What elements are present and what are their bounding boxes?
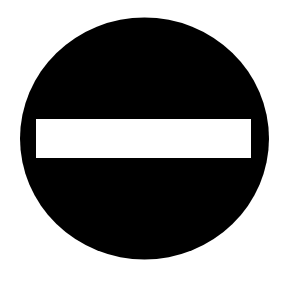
no-entry-sign: No entry sign bbox=[0, 0, 290, 283]
sign-bar bbox=[36, 119, 251, 158]
no-entry-icon bbox=[0, 0, 290, 283]
